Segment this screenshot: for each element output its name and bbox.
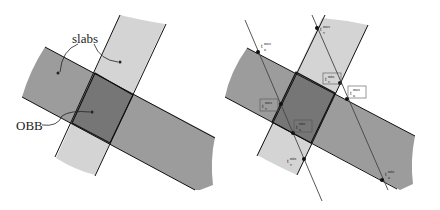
svg-text:u: u (264, 47, 266, 52)
right-figure: t max u t max v t min v t max u (225, 15, 415, 201)
svg-text:min: min (299, 121, 305, 126)
svg-text:v: v (290, 162, 292, 167)
left-figure: slabs OBB (16, 15, 215, 190)
label-t-max-u-1: t max u (261, 41, 271, 52)
svg-text:max: max (323, 24, 330, 29)
svg-text:u: u (353, 93, 355, 98)
svg-text:min: min (388, 169, 394, 174)
svg-text:max: max (264, 41, 271, 46)
svg-text:v: v (328, 79, 330, 84)
svg-text:max: max (353, 87, 360, 92)
obb-label: OBB (16, 118, 43, 133)
svg-text:v: v (323, 30, 325, 35)
label-t-max-u-2: t max u (348, 86, 366, 98)
svg-text:t: t (350, 90, 352, 96)
svg-text:max: max (265, 100, 272, 105)
svg-text:t: t (261, 43, 263, 49)
diagram-canvas: slabs OBB t max u (0, 0, 440, 210)
svg-text:u: u (388, 175, 390, 180)
svg-text:v: v (265, 106, 267, 111)
slabs-label: slabs (72, 31, 98, 46)
svg-text:min: min (290, 156, 296, 161)
svg-text:u: u (299, 127, 301, 132)
